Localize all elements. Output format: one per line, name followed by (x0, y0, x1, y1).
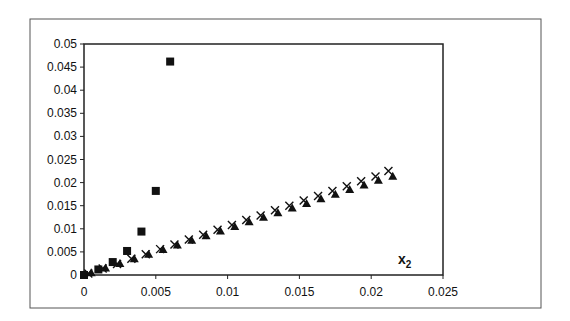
x-tick-label: 0.015 (284, 285, 314, 299)
y-tick-label: 0 (70, 268, 77, 282)
square-marker (152, 187, 160, 195)
x-axis-label-main: x (398, 251, 406, 267)
x-tick-label: 0.02 (360, 285, 384, 299)
x-tick-label: 0.01 (216, 285, 240, 299)
y-tick-label: 0.015 (47, 199, 77, 213)
plot-area (84, 44, 443, 275)
y-tick-label: 0.04 (54, 83, 78, 97)
x-axis-label-subscript: 2 (406, 259, 412, 270)
y-tick-label: 0.045 (47, 60, 77, 74)
square-marker (166, 58, 174, 66)
x-tick-label: 0.005 (141, 285, 171, 299)
x-axis: 00.0050.010.0150.020.025 (81, 275, 459, 299)
square-marker (123, 247, 131, 255)
y-tick-label: 0.005 (47, 245, 77, 259)
x-tick-label: 0 (81, 285, 88, 299)
scatter-chart: 00.0050.010.0150.020.0250.030.0350.040.0… (0, 0, 570, 321)
y-tick-label: 0.03 (54, 129, 78, 143)
y-tick-label: 0.035 (47, 106, 77, 120)
y-tick-label: 0.025 (47, 153, 77, 167)
y-axis: 00.0050.010.0150.020.0250.030.0350.040.0… (47, 37, 84, 282)
y-tick-label: 0.01 (54, 222, 78, 236)
y-tick-label: 0.05 (54, 37, 78, 51)
x-tick-label: 0.025 (428, 285, 458, 299)
y-tick-label: 0.02 (54, 176, 78, 190)
square-marker (137, 228, 145, 236)
